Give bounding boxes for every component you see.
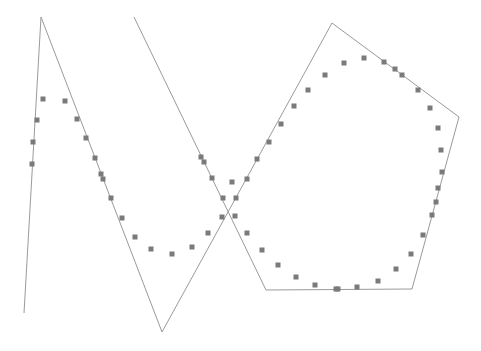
data-point-marker bbox=[234, 196, 239, 201]
data-point-marker bbox=[31, 140, 36, 145]
data-point-marker bbox=[313, 283, 318, 288]
data-point-marker bbox=[394, 267, 399, 272]
data-point-marker bbox=[245, 177, 250, 182]
data-point-marker bbox=[75, 117, 80, 122]
data-point-marker bbox=[133, 235, 138, 240]
data-point-marker bbox=[279, 122, 284, 127]
data-point-marker bbox=[35, 118, 40, 123]
data-point-marker bbox=[440, 170, 445, 175]
data-point-marker bbox=[276, 263, 281, 268]
data-point-marker bbox=[101, 177, 106, 182]
scatter-line-plot bbox=[0, 0, 481, 351]
data-point-marker bbox=[355, 285, 360, 290]
data-point-marker bbox=[99, 172, 104, 177]
data-point-marker bbox=[230, 180, 235, 185]
data-point-marker bbox=[221, 196, 226, 201]
data-point-marker bbox=[255, 157, 260, 162]
data-point-marker bbox=[233, 214, 238, 219]
data-point-marker bbox=[436, 126, 441, 131]
data-point-marker bbox=[376, 279, 381, 284]
data-point-marker bbox=[170, 252, 175, 257]
data-point-marker bbox=[342, 61, 347, 66]
data-point-marker bbox=[428, 106, 433, 111]
data-point-marker bbox=[63, 99, 68, 104]
data-point-marker bbox=[334, 287, 339, 292]
data-point-marker bbox=[30, 162, 35, 167]
data-point-marker bbox=[202, 160, 207, 165]
data-point-marker bbox=[190, 245, 195, 250]
data-point-marker bbox=[434, 200, 439, 205]
data-point-marker bbox=[306, 88, 311, 93]
data-point-marker bbox=[260, 248, 265, 253]
data-point-marker bbox=[93, 156, 98, 161]
data-point-marker bbox=[421, 233, 426, 238]
data-point-marker bbox=[416, 88, 421, 93]
data-point-marker bbox=[120, 216, 125, 221]
data-point-marker bbox=[267, 140, 272, 145]
data-point-marker bbox=[199, 155, 204, 160]
data-point-marker bbox=[41, 97, 46, 102]
data-point-marker bbox=[220, 215, 225, 220]
data-point-marker bbox=[409, 252, 414, 257]
data-point-marker bbox=[206, 231, 211, 236]
data-point-marker bbox=[400, 73, 405, 78]
data-point-marker bbox=[109, 196, 114, 201]
data-point-marker bbox=[84, 136, 89, 141]
data-point-marker bbox=[362, 56, 367, 61]
plot-background bbox=[0, 0, 481, 351]
data-point-marker bbox=[393, 67, 398, 72]
data-point-marker bbox=[382, 60, 387, 65]
data-point-marker bbox=[245, 231, 250, 236]
data-point-marker bbox=[210, 176, 215, 181]
data-point-marker bbox=[436, 186, 441, 191]
data-point-marker bbox=[323, 73, 328, 78]
data-point-marker bbox=[430, 213, 435, 218]
data-point-marker bbox=[292, 104, 297, 109]
data-point-marker bbox=[439, 148, 444, 153]
data-point-marker bbox=[149, 247, 154, 252]
data-point-marker bbox=[294, 275, 299, 280]
